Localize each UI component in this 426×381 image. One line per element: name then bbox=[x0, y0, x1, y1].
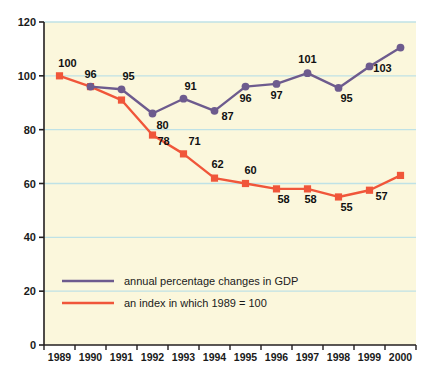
x-axis-tick-label: 1996 bbox=[265, 351, 289, 363]
data-point-marker bbox=[180, 95, 188, 103]
x-axis-tick-label: 2000 bbox=[389, 351, 413, 363]
chart-container: 0204060801001201989199019911992199319941… bbox=[0, 0, 426, 381]
x-axis-tick-label: 1989 bbox=[48, 351, 72, 363]
y-axis-tick-label: 0 bbox=[30, 339, 36, 351]
data-point-marker bbox=[180, 150, 187, 157]
data-point-marker bbox=[149, 131, 156, 138]
x-axis-tick-label: 1991 bbox=[110, 351, 134, 363]
data-point-marker bbox=[56, 72, 63, 79]
data-point-label: 91 bbox=[184, 80, 196, 92]
data-point-label: 97 bbox=[270, 89, 282, 101]
data-point-marker bbox=[304, 185, 311, 192]
data-point-marker bbox=[242, 180, 249, 187]
x-axis-tick-label: 1997 bbox=[296, 351, 320, 363]
x-axis-tick-label: 1995 bbox=[234, 351, 258, 363]
line-chart: 0204060801001201989199019911992199319941… bbox=[0, 0, 426, 381]
data-point-marker bbox=[335, 84, 343, 92]
x-axis-tick-label: 1999 bbox=[358, 351, 382, 363]
x-axis-tick-label: 1992 bbox=[141, 351, 165, 363]
data-point-label: 60 bbox=[244, 164, 256, 176]
data-point-marker bbox=[211, 175, 218, 182]
data-point-marker bbox=[118, 85, 126, 93]
data-point-label: 71 bbox=[188, 135, 200, 147]
data-point-label: 103 bbox=[373, 62, 391, 74]
data-point-label: 58 bbox=[277, 193, 289, 205]
data-point-marker bbox=[366, 63, 374, 71]
y-axis-tick-label: 120 bbox=[18, 16, 36, 28]
data-point-label: 62 bbox=[211, 158, 223, 170]
data-point-marker bbox=[273, 80, 281, 88]
data-point-marker bbox=[335, 193, 342, 200]
x-axis-tick-label: 1993 bbox=[172, 351, 196, 363]
data-point-marker bbox=[273, 185, 280, 192]
y-axis: 020406080100120 bbox=[18, 16, 44, 351]
data-point-label: 100 bbox=[58, 57, 76, 69]
data-point-marker bbox=[211, 107, 219, 115]
legend-item-label: an index in which 1989 = 100 bbox=[124, 297, 267, 309]
data-point-marker bbox=[366, 187, 373, 194]
data-point-marker bbox=[149, 110, 157, 118]
legend-item-label: annual percentage changes in GDP bbox=[124, 275, 298, 287]
y-axis-tick-label: 60 bbox=[24, 178, 36, 190]
data-point-marker bbox=[242, 83, 250, 91]
data-point-marker bbox=[87, 83, 95, 91]
data-point-marker bbox=[304, 69, 312, 77]
y-axis-tick-label: 20 bbox=[24, 285, 36, 297]
y-axis-tick-label: 80 bbox=[24, 124, 36, 136]
y-axis-tick-label: 100 bbox=[18, 70, 36, 82]
x-axis-tick-label: 1998 bbox=[327, 351, 351, 363]
data-point-marker bbox=[397, 172, 404, 179]
data-point-marker bbox=[397, 44, 405, 52]
data-point-label: 96 bbox=[84, 68, 96, 80]
data-point-label: 95 bbox=[340, 92, 352, 104]
data-point-label: 101 bbox=[298, 53, 316, 65]
data-point-label: 78 bbox=[157, 135, 169, 147]
x-axis: 1989199019911992199319941995199619971998… bbox=[44, 345, 416, 363]
data-point-label: 57 bbox=[375, 190, 387, 202]
data-point-label: 96 bbox=[239, 92, 251, 104]
data-point-label: 55 bbox=[340, 201, 352, 213]
y-axis-tick-label: 40 bbox=[24, 231, 36, 243]
x-axis-tick-label: 1990 bbox=[79, 351, 103, 363]
data-point-label: 95 bbox=[122, 70, 134, 82]
data-point-label: 58 bbox=[304, 193, 316, 205]
data-point-label: 80 bbox=[156, 119, 168, 131]
data-point-marker bbox=[118, 96, 125, 103]
x-axis-tick-label: 1994 bbox=[203, 351, 227, 363]
data-point-label: 87 bbox=[221, 110, 233, 122]
